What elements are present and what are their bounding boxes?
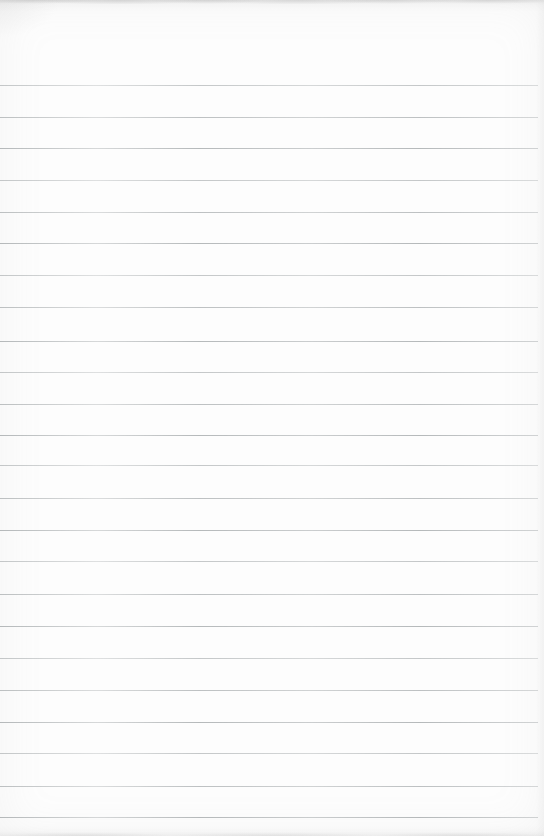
ruled-line [0,404,538,405]
ruled-line [0,561,538,562]
ruled-line [0,530,538,531]
ruled-line [0,372,538,373]
ruled-line [0,658,538,659]
ruled-line [0,117,538,118]
ruled-line [0,753,538,754]
ruled-line [0,594,538,595]
ruled-lines [0,0,544,836]
ruled-line [0,817,538,818]
ruled-line [0,148,538,149]
ruled-line [0,722,538,723]
ruled-line [0,786,538,787]
notebook-page [0,0,544,836]
ruled-line [0,85,538,86]
ruled-line [0,243,538,244]
ruled-line [0,275,538,276]
ruled-line [0,626,538,627]
ruled-line [0,498,538,499]
ruled-line [0,690,538,691]
ruled-line [0,341,538,342]
ruled-line [0,307,538,308]
ruled-line [0,212,538,213]
ruled-line [0,180,538,181]
ruled-line [0,465,538,466]
ruled-line [0,435,538,436]
